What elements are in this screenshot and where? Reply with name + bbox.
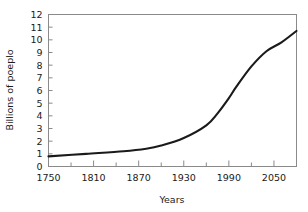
x-tick-label: 1990	[217, 172, 241, 183]
y-tick-label: 0	[36, 161, 42, 172]
x-tick-label: 1870	[127, 172, 151, 183]
population-growth-chart: 0123456789101112 17501810187019301990205…	[0, 0, 308, 212]
y-tick-label: 8	[36, 60, 42, 71]
y-tick-label: 3	[36, 123, 42, 134]
y-tick-label: 5	[36, 98, 42, 109]
population-curve	[49, 31, 297, 156]
plot-frame	[49, 15, 297, 167]
y-axis-tick-marks	[49, 15, 53, 167]
y-tick-label: 9	[36, 47, 42, 58]
y-tick-label: 7	[36, 72, 42, 83]
x-axis-tick-marks	[49, 161, 297, 167]
y-tick-label: 1	[36, 148, 42, 159]
y-axis-title: Billions of poeplo	[4, 49, 15, 130]
y-tick-label: 6	[36, 85, 42, 96]
x-tick-label: 1810	[81, 172, 105, 183]
chart-canvas: 0123456789101112 17501810187019301990205…	[0, 0, 308, 212]
x-tick-label: 2050	[262, 172, 286, 183]
x-axis-title: Years	[158, 194, 184, 205]
x-axis-tick-labels: 175018101870193019902050	[36, 172, 286, 183]
y-tick-label: 2	[36, 136, 42, 147]
y-tick-label: 10	[30, 34, 42, 45]
y-tick-label: 12	[30, 9, 42, 20]
y-axis-tick-labels: 0123456789101112	[30, 9, 42, 172]
x-tick-label: 1930	[172, 172, 196, 183]
y-tick-label: 11	[30, 22, 42, 33]
y-tick-label: 4	[36, 110, 42, 121]
x-tick-label: 1750	[36, 172, 60, 183]
